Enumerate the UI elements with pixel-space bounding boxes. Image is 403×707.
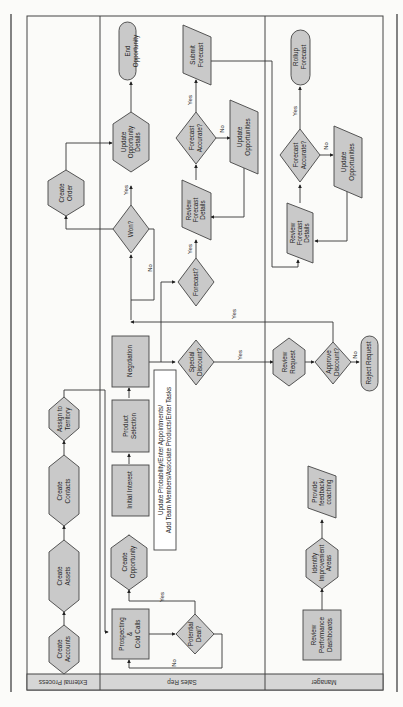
svg-text:Initial Interest: Initial Interest bbox=[126, 471, 133, 509]
svg-text:coaching: coaching bbox=[325, 479, 333, 505]
node-assign-territory: Assign toTerritory bbox=[49, 397, 79, 441]
node-approve-discount: ApproveDiscount? bbox=[315, 342, 351, 384]
node-provide-feedback: Providefeedback/coaching bbox=[308, 466, 336, 518]
svg-text:Reject Request: Reject Request bbox=[365, 341, 373, 384]
svg-text:Details: Details bbox=[199, 200, 206, 219]
svg-text:Opportunities: Opportunities bbox=[244, 118, 252, 155]
edge-label-no: No bbox=[323, 142, 329, 150]
node-negotiation: Negotiation bbox=[112, 336, 149, 387]
edge-label-no: No bbox=[147, 264, 153, 272]
node-review-performance-dashboards: ReviewPerformanceDashboards bbox=[303, 610, 341, 660]
edge-label-yes: Yes bbox=[231, 309, 237, 319]
node-potential-deal: PotentialDeal? bbox=[176, 614, 214, 654]
svg-text:Forecast: Forecast bbox=[300, 45, 307, 70]
lane-label-sales-rep: Sales Rep bbox=[167, 678, 197, 686]
node-review-request: ReviewRequest bbox=[273, 338, 305, 386]
edge-label-yes: Yes bbox=[159, 592, 165, 602]
svg-text:End: End bbox=[124, 45, 131, 57]
node-create-contacts: CreateContacts bbox=[49, 455, 79, 526]
svg-text:Review: Review bbox=[310, 624, 317, 645]
node-update-opportunities-mg: UpdateOpportunities bbox=[334, 126, 362, 198]
svg-text:Forecast?: Forecast? bbox=[192, 268, 199, 296]
svg-text:Add Team Members/Associate Pro: Add Team Members/Associate Products/Ente… bbox=[165, 387, 172, 533]
svg-text:Territory: Territory bbox=[64, 407, 72, 431]
edge-label-yes: Yes bbox=[187, 95, 193, 105]
svg-text:Sales Rep: Sales Rep bbox=[167, 678, 197, 686]
svg-text:Opportunity: Opportunity bbox=[129, 545, 137, 578]
svg-text:Areas: Areas bbox=[325, 555, 332, 571]
node-update-opportunities-sr: UpdateOpportunities bbox=[230, 100, 258, 174]
edge-label-yes: Yes bbox=[123, 185, 129, 195]
edge-label-yes: Yes bbox=[237, 350, 243, 360]
svg-text:Accurate?: Accurate? bbox=[300, 140, 307, 169]
svg-text:Order: Order bbox=[66, 185, 73, 201]
node-product-selection: ProductSelection bbox=[112, 400, 149, 452]
node-create-accounts: CreateAccounts bbox=[49, 625, 79, 674]
svg-text:Review: Review bbox=[281, 351, 288, 372]
svg-text:Create: Create bbox=[121, 552, 128, 571]
node-review-forecast-details-sr: ReviewForecastDetails bbox=[182, 180, 211, 240]
svg-text:Negotiation: Negotiation bbox=[126, 345, 134, 377]
svg-text:Potential: Potential bbox=[187, 622, 194, 647]
node-forecast-accurate-sr: ForecastAccurate? bbox=[176, 112, 216, 164]
node-won: Won? bbox=[113, 205, 149, 253]
node-update-opportunity-details: UpdateOpportunityDetails bbox=[113, 112, 149, 172]
node-end-opportunity: EndOpportunity bbox=[119, 22, 140, 80]
svg-text:Accurate?: Accurate? bbox=[196, 123, 203, 152]
svg-text:Won?: Won? bbox=[127, 220, 134, 237]
svg-text:Product: Product bbox=[122, 415, 129, 437]
svg-text:Review: Review bbox=[185, 199, 192, 220]
svg-text:Discount?: Discount? bbox=[196, 348, 203, 376]
svg-text:Assets: Assets bbox=[64, 567, 71, 586]
svg-text:Review: Review bbox=[289, 222, 296, 243]
node-review-forecast-details-mg: ReviewForecastDetails bbox=[287, 203, 313, 263]
svg-text:Opportunity: Opportunity bbox=[132, 34, 140, 67]
svg-text:Manager: Manager bbox=[311, 678, 337, 686]
svg-text:Provide: Provide bbox=[311, 481, 318, 503]
svg-text:Assign to: Assign to bbox=[56, 406, 64, 432]
edge-label-no: No bbox=[171, 659, 177, 667]
svg-text:Opportunities: Opportunities bbox=[348, 143, 356, 180]
svg-text:Performance: Performance bbox=[318, 616, 325, 653]
node-create-opportunity: CreateOpportunity bbox=[111, 535, 147, 590]
node-identify-improvement-areas: IdentifyImprovementAreas bbox=[306, 538, 338, 589]
svg-text:Special: Special bbox=[188, 352, 196, 373]
svg-text:feedback/: feedback/ bbox=[318, 478, 325, 506]
svg-text:Forecast: Forecast bbox=[296, 221, 303, 246]
node-prospecting: Prospecting&Cold Calls bbox=[112, 609, 149, 659]
svg-text:Forecast: Forecast bbox=[292, 143, 299, 168]
edge-label-yes: Yes bbox=[292, 106, 298, 116]
svg-text:Prospecting: Prospecting bbox=[118, 617, 126, 651]
svg-text:Forecast: Forecast bbox=[192, 198, 199, 223]
svg-text:Deal?: Deal? bbox=[195, 625, 202, 642]
svg-text:Dashboards: Dashboards bbox=[326, 618, 333, 652]
node-reject-request: Reject Request bbox=[361, 336, 378, 391]
svg-text:Discount?: Discount? bbox=[333, 348, 340, 376]
svg-text:Details: Details bbox=[303, 223, 310, 242]
svg-text:Update: Update bbox=[236, 126, 244, 147]
node-initial-interest: Initial Interest bbox=[112, 465, 149, 516]
svg-text:Create: Create bbox=[58, 183, 65, 202]
node-submit-forecast: SubmitForecast bbox=[183, 25, 211, 85]
svg-text:Submit: Submit bbox=[189, 45, 196, 65]
node-forecast-accurate-mg: ForecastAccurate? bbox=[280, 129, 320, 182]
svg-text:Update Probability/Enter Appoi: Update Probability/Enter Appointments/ bbox=[157, 405, 165, 515]
svg-text:External Process: External Process bbox=[39, 679, 87, 686]
note-update-probability: Update Probability/Enter Appointments/Ad… bbox=[154, 370, 176, 550]
node-create-order: CreateOrder bbox=[48, 170, 84, 216]
svg-text:Contacts: Contacts bbox=[64, 479, 71, 504]
svg-text:Create: Create bbox=[56, 639, 63, 658]
edge-label-no: No bbox=[352, 351, 358, 359]
svg-text:Request: Request bbox=[289, 350, 297, 374]
svg-text:Approve: Approve bbox=[325, 350, 333, 374]
svg-text:Forecast: Forecast bbox=[197, 43, 204, 68]
node-rollup-forecast: RollupForecast bbox=[291, 30, 310, 85]
lane-label-manager: Manager bbox=[311, 678, 337, 686]
svg-text:Accounts: Accounts bbox=[64, 636, 71, 662]
swimlane-flowchart: External Process Sales Rep Manager Yes N… bbox=[0, 0, 403, 707]
lane-label-external: External Process bbox=[39, 679, 87, 686]
svg-text:Forecast: Forecast bbox=[188, 126, 195, 151]
svg-text:Details: Details bbox=[134, 132, 141, 151]
svg-text:Rollup: Rollup bbox=[292, 48, 300, 66]
svg-text:Create: Create bbox=[56, 481, 63, 500]
